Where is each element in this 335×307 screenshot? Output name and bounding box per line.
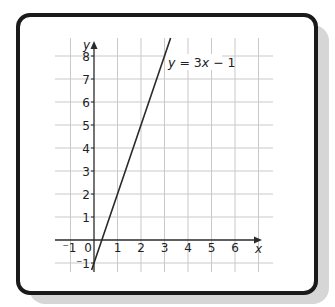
series-polyline — [92, 38, 171, 270]
series-line — [92, 38, 171, 270]
y-tick-label: 1 — [82, 211, 90, 225]
y-tick-label: 2 — [82, 188, 90, 202]
equation-label: y = 3x − 1 — [167, 55, 236, 70]
equation-mid: = 3 — [175, 55, 201, 70]
y-tick-label: 7 — [82, 73, 90, 87]
x-tick-label: 5 — [208, 241, 216, 255]
y-tick-label: ⁻1 — [76, 257, 90, 271]
y-tick-label: 4 — [82, 142, 90, 156]
x-tick-label: 0 — [84, 241, 92, 255]
chart-plot: ⁻10123456 ⁻112345678 x y y = 3x − 1 — [0, 0, 335, 307]
x-axis-label: x — [254, 242, 263, 256]
x-tick-label: 4 — [184, 241, 192, 255]
x-tick-label: 1 — [114, 241, 122, 255]
y-tick-labels: ⁻112345678 — [76, 50, 90, 271]
y-tick-label: 5 — [82, 119, 90, 133]
y-tick-label: 6 — [82, 96, 90, 110]
y-tick-label: 3 — [82, 165, 90, 179]
y-axis-arrow-icon — [91, 41, 98, 49]
x-tick-label: ⁻1 — [63, 241, 77, 255]
equation-end: − 1 — [209, 55, 235, 70]
x-tick-label: 2 — [137, 241, 145, 255]
x-tick-label: 6 — [231, 241, 239, 255]
y-axis-label: y — [82, 38, 91, 52]
x-tick-label: 3 — [161, 241, 169, 255]
x-tick-labels: ⁻10123456 — [63, 241, 239, 255]
